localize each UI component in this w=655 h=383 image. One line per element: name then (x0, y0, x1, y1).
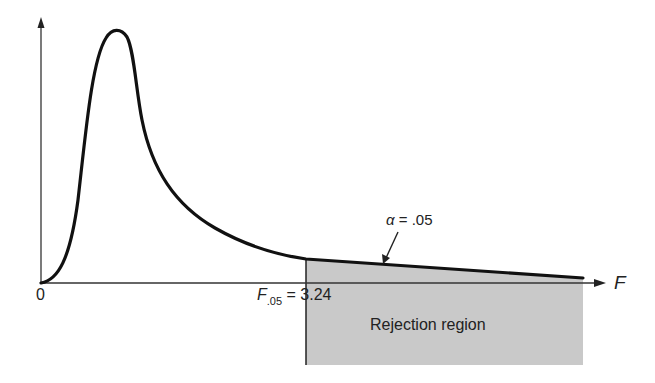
y-axis-arrow-icon (38, 17, 45, 28)
alpha-symbol: α (386, 211, 395, 228)
rejection-region-label: Rejection region (370, 316, 486, 334)
f-distribution-chart (0, 0, 655, 383)
alpha-label: α = .05 (386, 211, 433, 228)
alpha-pointer-arrow (386, 232, 398, 258)
x-axis-arrow-icon (594, 279, 606, 287)
density-curve (41, 30, 583, 283)
origin-label: 0 (36, 286, 45, 304)
critical-value: = 3.24 (282, 286, 331, 303)
x-axis-label: F (614, 272, 626, 294)
critical-subscript: .05 (267, 295, 282, 307)
critical-symbol: F (257, 286, 267, 303)
alpha-pointer-arrowhead-icon (382, 254, 390, 264)
critical-value-label: F.05 = 3.24 (257, 286, 331, 307)
alpha-value: = .05 (395, 211, 433, 228)
